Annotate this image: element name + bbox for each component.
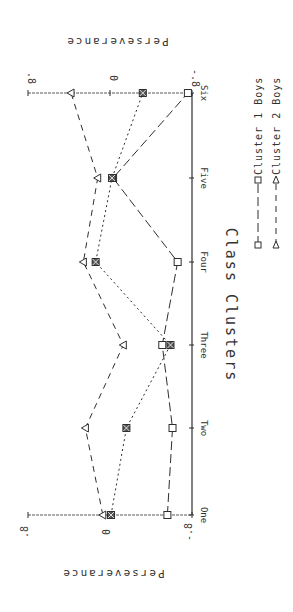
value-tick-label: -.8 xyxy=(183,523,194,541)
square-marker-icon xyxy=(169,425,176,432)
square-marker-icon xyxy=(159,342,166,349)
series-line-1 xyxy=(113,93,188,515)
square-marker-icon xyxy=(164,512,171,519)
legend-label: Cluster 2 Boys xyxy=(271,77,282,175)
triangle-marker-icon xyxy=(67,89,74,97)
legend-triangle-marker-icon xyxy=(273,241,279,248)
value-tick-label: .8 xyxy=(19,526,30,538)
y-axis-title: Perseverance xyxy=(65,35,168,48)
value-tick-label: .8 xyxy=(26,72,37,84)
triangle-marker-icon xyxy=(79,258,86,266)
chart-canvas: OneTwoThreeFourFiveSix.8.800-.8-.8Persev… xyxy=(0,0,293,612)
y-axis-title: Perseverance xyxy=(61,567,164,580)
value-tick-label: 0 xyxy=(108,75,119,81)
category-label: Six xyxy=(199,85,209,102)
category-label: Three xyxy=(199,331,209,358)
category-label: Five xyxy=(199,167,209,189)
line-chart: OneTwoThreeFourFiveSix.8.800-.8-.8Persev… xyxy=(0,0,293,612)
legend-label: Cluster 1 Boys xyxy=(253,77,264,175)
legend-triangle-marker-icon xyxy=(273,176,279,183)
legend-square-marker-icon xyxy=(255,177,261,183)
value-tick-label: 0 xyxy=(101,529,112,535)
value-tick-label: -.8 xyxy=(190,69,201,87)
category-label: Two xyxy=(199,420,209,436)
chart-title: Class Clusters xyxy=(222,228,240,382)
plot-area: OneTwoThreeFourFiveSix.8.800-.8-.8Persev… xyxy=(19,35,282,580)
category-label: One xyxy=(199,507,209,523)
triangle-marker-icon xyxy=(81,424,88,432)
square-marker-icon xyxy=(174,259,181,266)
triangle-marker-icon xyxy=(119,341,126,349)
category-label: Four xyxy=(199,251,209,273)
series-line-3 xyxy=(96,93,171,515)
legend-square-marker-icon xyxy=(255,242,261,248)
series-line-2 xyxy=(71,93,123,515)
square-marker-icon xyxy=(184,90,191,97)
